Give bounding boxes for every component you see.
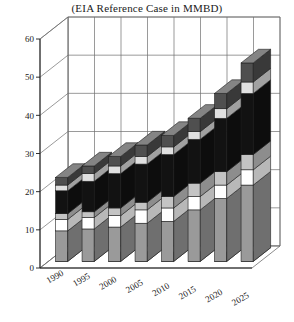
bar-segment-front <box>162 197 174 208</box>
bar-segment-front <box>109 174 121 208</box>
bar-segment-front <box>82 174 94 182</box>
bar-segment-front <box>109 208 121 216</box>
bar-segment-front <box>56 185 68 191</box>
bar-segment-front <box>188 118 200 131</box>
bar-segment-front <box>109 166 121 174</box>
bar-segment-front <box>135 164 147 202</box>
bar-segment-front <box>135 210 147 223</box>
bar-segment-front <box>82 181 94 212</box>
bar-segment-front <box>162 221 174 261</box>
bar-segment-front <box>241 170 253 185</box>
bar-segment-front <box>82 166 94 174</box>
x-category-label: 1995 <box>71 271 92 289</box>
bar-segment-front <box>109 216 121 227</box>
bar-segment-front <box>109 156 121 166</box>
bar-segment-front <box>215 118 227 171</box>
bar-segment-front <box>241 155 253 170</box>
bar-segment-front <box>82 218 94 229</box>
bar-segment-front <box>135 202 147 210</box>
bar-segment-front <box>188 139 200 183</box>
bar-column <box>188 105 218 262</box>
bar-segment-front <box>109 227 121 261</box>
x-category-label: 2005 <box>124 277 145 295</box>
bar-column <box>109 143 139 262</box>
bar-segment-front <box>56 177 68 185</box>
bar-segment-front <box>188 183 200 196</box>
x-category-label: 1990 <box>45 267 66 285</box>
stacked-column-chart: (EIA Reference Case in MMBD) 01020304050… <box>0 0 294 322</box>
y-tick-label: 0 <box>30 263 35 273</box>
bar-segment-front <box>162 147 174 155</box>
bar-segment-front <box>135 223 147 261</box>
bar-segment-side <box>253 171 270 261</box>
bar-segment-front <box>241 82 253 93</box>
bar-segment-front <box>82 229 94 261</box>
bar-segment-front <box>241 93 253 154</box>
y-tick-label: 40 <box>25 111 35 121</box>
bar-segment-front <box>241 63 253 82</box>
y-tick-label: 60 <box>25 34 35 44</box>
bar-segment-front <box>215 93 227 108</box>
bar-segment-front <box>162 155 174 197</box>
bar-segment-front <box>188 197 200 210</box>
bar-segment-front <box>56 191 68 214</box>
x-category-label: 2025 <box>230 290 251 308</box>
bar-column <box>82 152 112 261</box>
bar-segment-front <box>215 172 227 185</box>
x-category-label: 2015 <box>177 283 198 301</box>
bar-segment-front <box>215 109 227 119</box>
plot-area: 0102030405060199019952000200520102015202… <box>0 0 294 322</box>
bar-segment-front <box>82 212 94 218</box>
bar-segment-front <box>188 210 200 262</box>
y-tick-label: 20 <box>25 187 35 197</box>
bar-column <box>162 122 192 262</box>
bar-segment-front <box>162 208 174 221</box>
bar-column <box>215 80 245 262</box>
x-category-label: 2020 <box>204 287 225 305</box>
bar-segment-front <box>135 145 147 156</box>
bar-segment-front <box>215 198 227 261</box>
y-tick-label: 50 <box>25 72 35 82</box>
bar-segment-front <box>56 219 68 230</box>
bar-column <box>56 164 86 262</box>
bar-column <box>241 49 271 261</box>
x-category-label: 2010 <box>151 280 172 298</box>
bar-column <box>135 131 165 261</box>
y-tick-label: 30 <box>25 149 35 159</box>
bar-segment-front <box>215 185 227 198</box>
y-tick-label: 10 <box>25 225 35 235</box>
bar-segment-front <box>162 135 174 146</box>
bar-segment-front <box>135 156 147 164</box>
bar-segment-front <box>241 185 253 261</box>
bar-segment-front <box>188 132 200 140</box>
x-category-label: 2000 <box>98 274 119 292</box>
bar-segment-front <box>56 231 68 262</box>
bar-segment-front <box>56 214 68 220</box>
